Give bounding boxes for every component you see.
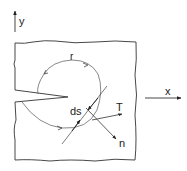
tangent-line [62, 86, 107, 144]
contour-arrow-icon [44, 70, 48, 74]
normal-arrow [86, 108, 116, 139]
traction-label: T [116, 102, 123, 113]
j-integral-diagram [0, 0, 187, 171]
ds-label: ds [70, 106, 82, 117]
contour-path [22, 60, 101, 128]
x-axis-label: x [165, 86, 171, 97]
y-axis-label: y [19, 16, 25, 27]
contour-arrow-icon [57, 126, 62, 130]
traction-arrow [92, 114, 122, 120]
contour-label: r [70, 52, 73, 62]
ds-arrow-bottom [72, 120, 80, 131]
ds-arrow-top [88, 98, 98, 110]
normal-label: n [119, 138, 125, 149]
